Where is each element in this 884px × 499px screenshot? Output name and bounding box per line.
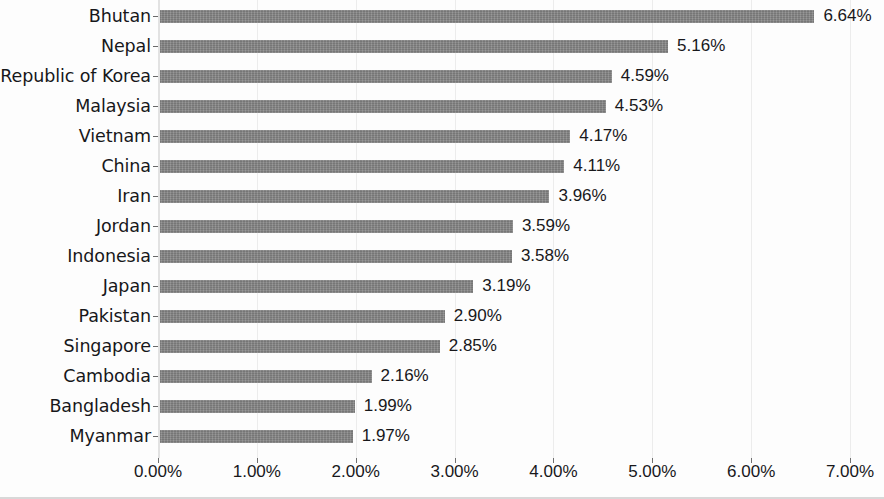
plot-area: Bhutan6.64%Nepal5.16%Republic of Korea4.…	[158, 0, 850, 458]
x-axis-labels: 0.00%1.00%2.00%3.00%4.00%5.00%6.00%7.00%	[158, 462, 850, 492]
bar-row: Nepal5.16%	[158, 31, 850, 61]
bar-value-label: 3.96%	[558, 181, 606, 211]
category-label: Bhutan	[89, 1, 151, 31]
bar	[158, 370, 372, 383]
bar-row: Indonesia3.58%	[158, 241, 850, 271]
category-label: Singapore	[64, 331, 151, 361]
category-label: Japan	[103, 271, 151, 301]
bar-row: Vietnam4.17%	[158, 121, 850, 151]
bar	[158, 310, 445, 323]
bar-value-label: 1.97%	[362, 421, 410, 451]
category-label: Iran	[117, 181, 151, 211]
x-axis-tick-label: 6.00%	[727, 462, 775, 482]
bar-row: Bhutan6.64%	[158, 1, 850, 31]
bar	[158, 100, 606, 113]
x-axis-tick-label: 0.00%	[134, 462, 182, 482]
bar-value-label: 3.19%	[482, 271, 530, 301]
x-axis-tick-label: 5.00%	[628, 462, 676, 482]
bar-row: China4.11%	[158, 151, 850, 181]
y-axis-line	[158, 0, 160, 458]
x-axis-tick-label: 1.00%	[233, 462, 281, 482]
gridline-7.00%	[850, 0, 851, 458]
bar-value-label: 2.16%	[381, 361, 429, 391]
bar	[158, 430, 353, 443]
bar-value-label: 4.53%	[615, 91, 663, 121]
x-axis-tick-label: 3.00%	[430, 462, 478, 482]
bar	[158, 400, 355, 413]
x-axis-tick-label: 4.00%	[529, 462, 577, 482]
bar-row: Bangladesh1.99%	[158, 391, 850, 421]
category-label: Cambodia	[63, 361, 151, 391]
bar	[158, 160, 564, 173]
x-axis-tick-label: 7.00%	[826, 462, 874, 482]
bar-value-label: 3.59%	[522, 211, 570, 241]
bar-value-label: 4.11%	[573, 151, 620, 181]
bar-row: Jordan3.59%	[158, 211, 850, 241]
bar-row: Cambodia2.16%	[158, 361, 850, 391]
bar-row: Republic of Korea4.59%	[158, 61, 850, 91]
bar	[158, 70, 612, 83]
category-label: Republic of Korea	[0, 61, 151, 91]
bar	[158, 190, 549, 203]
bar-row: Singapore2.85%	[158, 331, 850, 361]
bar-row: Pakistan2.90%	[158, 301, 850, 331]
bar-value-label: 4.59%	[621, 61, 669, 91]
bar	[158, 10, 814, 23]
bar-value-label: 1.99%	[364, 391, 412, 421]
bar-value-label: 5.16%	[677, 31, 725, 61]
category-label: China	[102, 151, 152, 181]
bar-row: Malaysia4.53%	[158, 91, 850, 121]
bar-row: Iran3.96%	[158, 181, 850, 211]
bar-value-label: 3.58%	[521, 241, 569, 271]
bar-chart: Bhutan6.64%Nepal5.16%Republic of Korea4.…	[0, 0, 884, 499]
x-axis-tick-label: 2.00%	[332, 462, 380, 482]
bar-value-label: 6.64%	[823, 1, 871, 31]
category-label: Jordan	[96, 211, 151, 241]
category-label: Myanmar	[69, 421, 151, 451]
category-label: Pakistan	[79, 301, 151, 331]
category-label: Vietnam	[79, 121, 151, 151]
bar	[158, 340, 440, 353]
bar-row: Myanmar1.97%	[158, 421, 850, 451]
bar	[158, 220, 513, 233]
category-label: Nepal	[101, 31, 151, 61]
bar	[158, 40, 668, 53]
category-label: Bangladesh	[49, 391, 151, 421]
bar-value-label: 4.17%	[579, 121, 627, 151]
bar-row: Japan3.19%	[158, 271, 850, 301]
bar-value-label: 2.90%	[454, 301, 502, 331]
bar	[158, 280, 473, 293]
category-label: Malaysia	[75, 91, 151, 121]
bar	[158, 250, 512, 263]
bar	[158, 130, 570, 143]
category-label: Indonesia	[67, 241, 151, 271]
bar-value-label: 2.85%	[449, 331, 497, 361]
